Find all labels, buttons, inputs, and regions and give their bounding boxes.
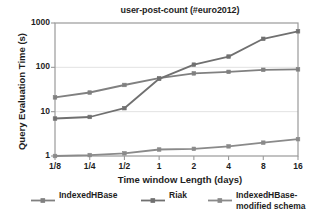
data-point xyxy=(192,147,196,151)
data-point xyxy=(192,63,196,67)
legend-marker-icon xyxy=(30,191,56,200)
y-tick-label: 1 xyxy=(22,150,50,160)
legend-marker-icon xyxy=(207,191,233,200)
data-point xyxy=(296,68,300,72)
data-point xyxy=(88,91,92,95)
data-point xyxy=(123,106,127,110)
y-tick-label: 100 xyxy=(22,61,50,71)
x-tick-label: 16 xyxy=(281,161,315,171)
x-tick-label: 1/8 xyxy=(38,161,72,171)
x-tick-label: 1 xyxy=(142,161,176,171)
chart-figure: user-post-count (#euro2012) Query Evalua… xyxy=(0,0,319,223)
data-point xyxy=(53,96,57,100)
x-tick-label: 8 xyxy=(246,161,280,171)
data-point xyxy=(123,83,127,87)
data-point xyxy=(192,72,196,76)
data-point xyxy=(88,153,92,157)
data-point xyxy=(227,145,231,149)
data-point xyxy=(157,77,161,81)
data-point xyxy=(227,55,231,59)
legend-marker-icon xyxy=(140,191,166,200)
data-point xyxy=(261,37,265,41)
data-point xyxy=(296,137,300,141)
chart-legend: IndexedHBaseRiakIndexedHBase- modified s… xyxy=(0,190,319,223)
data-point xyxy=(227,70,231,74)
legend-label: IndexedHBase- modified schema xyxy=(236,190,305,212)
x-tick-label: 4 xyxy=(212,161,246,171)
x-tick-label: 1/2 xyxy=(107,161,141,171)
data-point xyxy=(296,29,300,33)
data-point xyxy=(157,148,161,152)
plot-frame xyxy=(55,23,298,156)
y-tick-label: 10 xyxy=(22,106,50,116)
legend-item[interactable]: Riak xyxy=(140,190,187,201)
x-tick-label: 1/4 xyxy=(73,161,107,171)
data-point xyxy=(88,115,92,119)
x-tick-label: 2 xyxy=(177,161,211,171)
legend-label: Riak xyxy=(169,190,187,201)
data-point xyxy=(261,141,265,145)
y-tick-label: 1000 xyxy=(22,17,50,27)
legend-label: IndexedHBase xyxy=(59,190,118,201)
legend-item[interactable]: IndexedHBase- modified schema xyxy=(207,190,305,212)
data-point xyxy=(53,154,57,158)
data-point xyxy=(123,152,127,156)
data-point xyxy=(261,68,265,72)
legend-item[interactable]: IndexedHBase xyxy=(30,190,118,201)
data-point xyxy=(53,117,57,121)
